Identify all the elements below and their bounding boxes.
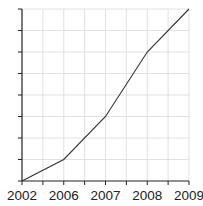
x-tick-label: 2009 (174, 188, 203, 203)
x-tick-label: 2008 (132, 188, 162, 203)
x-tick-label: 2007 (90, 188, 120, 203)
x-tick-label: 2002 (7, 188, 37, 203)
x-tick-label: 2006 (49, 188, 79, 203)
x-axis-labels: 20022006200720082009 (7, 188, 203, 203)
line-chart: 20022006200720082009 (0, 0, 203, 206)
